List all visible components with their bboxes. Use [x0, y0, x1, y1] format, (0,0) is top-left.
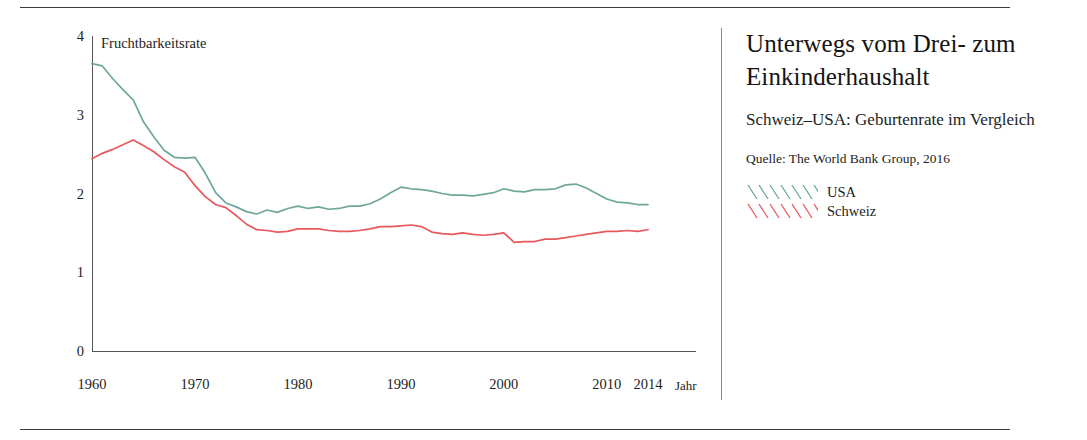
headline: Unterwegs vom Drei- zum Einkinderhaushal… [746, 28, 1056, 93]
legend-label: USA [827, 185, 856, 200]
text-panel: Unterwegs vom Drei- zum Einkinderhaushal… [746, 28, 1056, 221]
infographic-figure: Fruchtbarkeitsrate 01234 196019701980199… [0, 0, 1087, 440]
series-lines [0, 0, 721, 440]
legend: USASchweiz [746, 183, 1056, 221]
chart-panel: Fruchtbarkeitsrate 01234 196019701980199… [0, 0, 721, 440]
legend-swatch-schweiz [746, 203, 818, 220]
subheadline: Schweiz–USA: Geburtenrate im Vergleich [746, 109, 1056, 132]
legend-item-schweiz: Schweiz [746, 202, 1056, 221]
series-line-schweiz [92, 140, 648, 242]
panel-divider [721, 28, 722, 400]
legend-swatch-usa [746, 184, 818, 201]
source-note: Quelle: The World Bank Group, 2016 [746, 150, 1056, 168]
legend-label: Schweiz [827, 204, 876, 219]
legend-item-usa: USA [746, 183, 1056, 202]
series-line-usa [92, 64, 648, 214]
